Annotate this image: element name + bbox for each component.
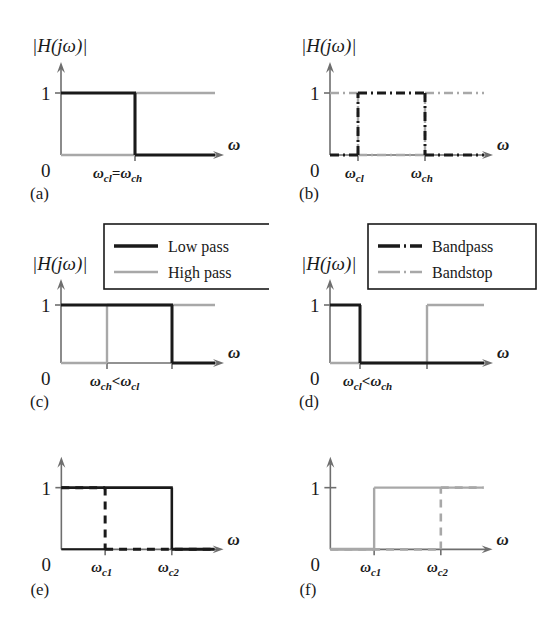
curve-bandpass-b bbox=[330, 93, 484, 155]
curve-low-pass-a bbox=[61, 93, 215, 155]
panel-f-cutoff-low: ωc1 bbox=[360, 559, 381, 578]
curve-bandstop-b bbox=[330, 93, 484, 155]
panel-b: |H(jω)| 1 0 ω ωcl ωch (b) bbox=[269, 0, 538, 208]
panel-c: |H(jω)| 1 0 ω ωch<ωcl (c) Low pass High … bbox=[0, 208, 269, 416]
panel-f-xlabel: ω bbox=[497, 530, 509, 549]
panel-a: |H(jω)| 1 0 ω ωcl=ωch (a) bbox=[0, 0, 269, 208]
panel-b-caption: (b) bbox=[299, 184, 319, 203]
axes-e bbox=[55, 457, 223, 556]
panel-b-ytick-one: 1 bbox=[310, 83, 320, 104]
curve-high-pass-low-cutoff-f bbox=[330, 488, 483, 550]
panel-c-caption: (c) bbox=[30, 392, 49, 411]
axes-b bbox=[324, 62, 493, 161]
panel-e-ytick-zero: 0 bbox=[41, 554, 50, 575]
legend-d: Bandpass Bandstop bbox=[368, 224, 536, 289]
panel-f: 1 0 ω ωc1 ωc2 (f) bbox=[269, 416, 538, 624]
panel-f-cutoff-high: ωc2 bbox=[427, 559, 449, 578]
panel-a-ylabel: |H(jω)| bbox=[32, 35, 88, 57]
panel-e-cutoff-low: ωc1 bbox=[91, 559, 112, 578]
panel-c-ytick-zero: 0 bbox=[41, 368, 51, 389]
panel-d-ytick-zero: 0 bbox=[310, 368, 320, 389]
curve-high-pass-c bbox=[61, 305, 215, 363]
legend-label-low-pass: Low pass bbox=[168, 238, 229, 256]
axes-d bbox=[324, 279, 493, 369]
panel-e-cutoff-high: ωc2 bbox=[158, 559, 180, 578]
panel-c-plot: |H(jω)| 1 0 ω ωch<ωcl (c) Low pass High … bbox=[0, 208, 269, 416]
curve-high-pass-a bbox=[61, 93, 215, 155]
curve-low-pass-wide-e bbox=[61, 488, 214, 550]
curve-low-pass-d bbox=[330, 305, 484, 363]
panel-e-plot: 1 0 ω ωc1 ωc2 (e) bbox=[0, 416, 269, 624]
panel-d-ylabel: |H(jω)| bbox=[301, 253, 357, 275]
panel-e-ytick-one: 1 bbox=[41, 478, 50, 499]
panel-a-xlabel: ω bbox=[228, 135, 240, 154]
panel-c-ylabel: |H(jω)| bbox=[32, 253, 88, 275]
panel-b-plot: |H(jω)| 1 0 ω ωcl ωch (b) bbox=[269, 0, 538, 208]
panel-b-cutoff-low: ωcl bbox=[345, 165, 365, 184]
panel-c-cutoff-label: ωch<ωcl bbox=[90, 373, 140, 392]
panel-e: 1 0 ω ωc1 ωc2 (e) bbox=[0, 416, 269, 624]
legend-label-bandstop: Bandstop bbox=[432, 264, 492, 282]
legend-c: Low pass High pass bbox=[104, 224, 269, 289]
curve-low-pass-c bbox=[61, 305, 215, 363]
panel-c-xlabel: ω bbox=[228, 343, 240, 362]
panel-b-xlabel: ω bbox=[497, 135, 509, 154]
panel-d: |H(jω)| 1 0 ω ωcl<ωch (d) Bandpass Bands… bbox=[269, 208, 538, 416]
panel-d-caption: (d) bbox=[299, 392, 319, 411]
panel-d-cutoff-label: ωcl<ωch bbox=[343, 373, 392, 392]
curve-low-pass-narrow-e bbox=[61, 488, 214, 550]
panel-a-ytick-zero: 0 bbox=[41, 160, 51, 181]
panel-f-plot: 1 0 ω ωc1 ωc2 (f) bbox=[269, 416, 538, 624]
panel-a-plot: |H(jω)| 1 0 ω ωcl=ωch (a) bbox=[0, 0, 269, 208]
svg-text:ωcl=ωch: ωcl=ωch bbox=[93, 165, 142, 184]
panel-d-xlabel: ω bbox=[497, 343, 509, 362]
panel-c-ytick-one: 1 bbox=[41, 295, 51, 316]
panel-e-xlabel: ω bbox=[228, 530, 240, 549]
axes-c bbox=[55, 279, 224, 369]
panel-f-caption: (f) bbox=[300, 580, 317, 599]
panel-a-cutoff-label: ωcl=ωch bbox=[93, 165, 142, 184]
panel-d-plot: |H(jω)| 1 0 ω ωcl<ωch (d) Bandpass Bands… bbox=[269, 208, 538, 416]
legend-label-high-pass: High pass bbox=[168, 264, 232, 282]
curve-high-pass-d bbox=[330, 305, 484, 363]
curve-high-pass-high-cutoff-f bbox=[330, 488, 483, 550]
panel-f-ytick-one: 1 bbox=[310, 478, 319, 499]
panel-b-ytick-zero: 0 bbox=[310, 160, 320, 181]
axes-f bbox=[324, 457, 492, 556]
panel-b-ylabel: |H(jω)| bbox=[301, 35, 357, 57]
panel-f-ytick-zero: 0 bbox=[310, 554, 319, 575]
panel-a-ytick-one: 1 bbox=[41, 83, 51, 104]
axes-a bbox=[55, 62, 224, 161]
panel-e-caption: (e) bbox=[31, 580, 50, 599]
panel-b-cutoff-high: ωch bbox=[411, 165, 433, 184]
panel-a-caption: (a) bbox=[30, 184, 49, 203]
legend-label-bandpass: Bandpass bbox=[432, 238, 493, 256]
panel-d-ytick-one: 1 bbox=[310, 295, 320, 316]
